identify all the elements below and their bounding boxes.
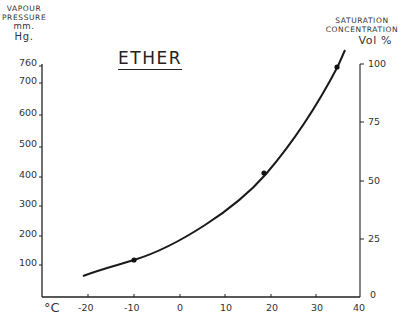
data-point (131, 257, 136, 262)
data-point (334, 64, 339, 69)
vapour-pressure-curve (83, 50, 345, 276)
data-point (261, 170, 266, 175)
chart-plot (0, 0, 403, 328)
